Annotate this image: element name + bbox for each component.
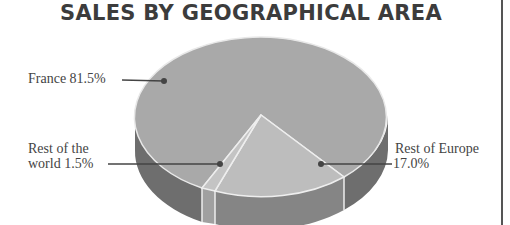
label-europe-line2: 17.0% — [393, 156, 429, 172]
label-france: France 81.5% — [28, 71, 106, 87]
label-europe-line1: Rest of Europe — [395, 141, 479, 157]
label-world-line1: Rest of the — [28, 141, 89, 157]
pie-side-world — [202, 188, 215, 224]
pie-chart — [0, 0, 510, 225]
label-world-line2: world 1.5% — [28, 156, 93, 172]
